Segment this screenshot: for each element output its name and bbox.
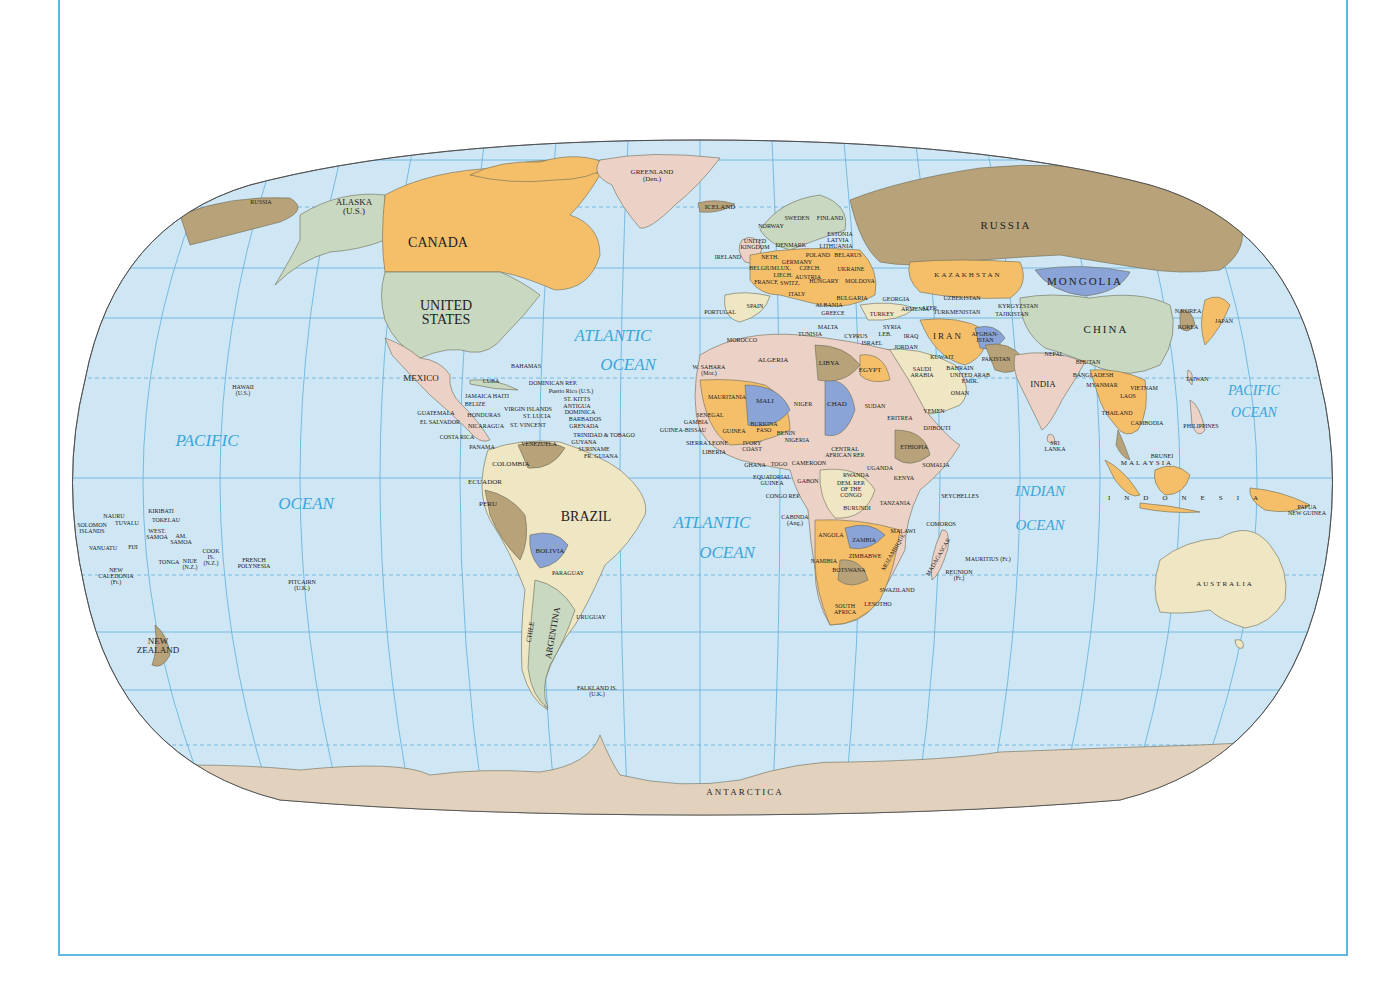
country-label: SOUTH AFRICA (834, 603, 856, 615)
country-label: GUINEA-BISSAU (660, 427, 706, 433)
country-label: NIUE (N.Z.) (183, 558, 198, 570)
country-label: ANGOLA (818, 532, 843, 538)
country-label: BOLIVIA (536, 548, 565, 555)
country-label: NIGER (794, 401, 812, 407)
country-label: INDIA (1030, 380, 1056, 389)
country-label: PAPUA NEW GUINEA (1288, 504, 1326, 516)
country-label: CAMBODIA (1131, 420, 1164, 426)
country-label: LIBYA (819, 360, 840, 367)
ocean-label: ATLANTIC (575, 326, 652, 346)
country-label: NEPAL (1045, 351, 1064, 357)
country-label: MYANMAR (1086, 382, 1117, 388)
ocean-label: PACIFIC (176, 431, 239, 451)
country-label: GRENADA (569, 423, 598, 429)
country-label: LESOTHO (864, 601, 891, 607)
country-label: PHILIPPINES (1183, 423, 1218, 429)
country-label: FIJI (128, 544, 138, 550)
country-label: ZIMBABWE (849, 553, 882, 559)
country-label: WEST. SAMOA (146, 528, 168, 540)
country-label: MALTA (818, 324, 838, 330)
country-label: CHINA (1084, 324, 1129, 335)
country-label: ALASKA (U.S.) (336, 198, 373, 216)
country-label: PITCAIRN (U.K.) (288, 579, 316, 591)
country-label: GUINEA (723, 428, 746, 434)
country-label: ANTARCTICA (706, 788, 783, 797)
country-label: RUSSIA (980, 220, 1031, 231)
country-label: SURINAME (578, 446, 609, 452)
country-label: TRINIDAD & TOBAGO (573, 432, 634, 438)
country-label: KAZAKHSTAN (934, 272, 1001, 279)
country-label: SAUDI ARABIA (910, 366, 933, 378)
country-label: ERITREA (887, 415, 912, 421)
country-label: CYPRUS (844, 333, 867, 339)
country-label: CABINDA (Ang.) (781, 514, 808, 526)
country-label: TAJIKISTAN (995, 311, 1028, 317)
country-label: COOK IS. (N.Z.) (202, 548, 219, 566)
country-label: NAURU (103, 513, 124, 519)
country-label: EL SALVADOR (420, 419, 460, 425)
country-label: REUNION (Fr.) (946, 569, 973, 581)
country-label: BOTSWANA (832, 567, 865, 573)
country-label: MOLDOVA (845, 278, 875, 284)
country-label: FR. GUIANA (584, 453, 618, 459)
ocean-label: OCEAN (1015, 517, 1064, 534)
country-label: IRAQ (904, 333, 919, 339)
ocean-label: OCEAN (1231, 405, 1277, 421)
country-label: GUYANA (571, 439, 596, 445)
country-label: EGYPT (859, 367, 882, 374)
country-label: MONGOLIA (1047, 276, 1123, 287)
country-label: DENMARK (776, 242, 806, 248)
country-label: DOMINICAN REP. (529, 380, 577, 386)
country-label: SPAIN (747, 303, 764, 309)
country-label: INDONESIA (1108, 495, 1272, 502)
country-label: TUVALU (115, 520, 139, 526)
country-label: UNITED KINGDOM (741, 238, 770, 250)
ocean-label: PACIFIC (1228, 383, 1280, 399)
country-label: TOKELAU (152, 517, 180, 523)
country-label: CHAD (827, 401, 847, 408)
country-label: CUBA (483, 378, 500, 384)
country-label: HONDURAS (467, 412, 500, 418)
country-label: RWANDA (843, 472, 869, 478)
ocean-label: OCEAN (600, 355, 656, 375)
country-label: LEB. (879, 331, 892, 337)
ocean-label: OCEAN (278, 494, 334, 514)
country-label: MALAYSIA (1121, 460, 1173, 467)
country-label: IRELAND (715, 254, 741, 260)
country-label: JORDAN (894, 344, 918, 350)
country-label: TANZANIA (880, 500, 911, 506)
country-label: JAMAICA HAITI (465, 393, 509, 399)
country-label: KYRGYZSTAN (998, 303, 1038, 309)
country-label: PANAMA (469, 444, 494, 450)
ocean-label: ATLANTIC (674, 513, 751, 533)
country-label: BHUTAN (1076, 359, 1101, 365)
country-label: BURUNDI (843, 505, 870, 511)
land-kazakhstan (909, 260, 1024, 298)
country-label: COSTA RICA (440, 434, 475, 440)
country-label: GEORGIA (883, 296, 910, 302)
country-label: TAIWAN (1185, 376, 1208, 382)
country-label: AUSTRALIA (1196, 581, 1254, 588)
country-label: VIETNAM (1130, 385, 1158, 391)
country-label: HUNGARY (809, 278, 839, 284)
country-label: CONGO REP. (766, 493, 801, 499)
country-label: FRENCH POLYNESIA (238, 557, 271, 569)
country-label: TUNISIA (798, 331, 822, 337)
country-label: AFGHAN- ISTAN (972, 331, 999, 343)
country-label: ST. KITTS (564, 396, 591, 402)
country-label: NORWAY (758, 223, 783, 229)
country-label: CENTRAL AFRICAN REP. (825, 446, 865, 458)
country-label: BELIZE (465, 401, 486, 407)
country-label: PARAGUAY (552, 570, 584, 576)
country-label: ST. LUCIA (523, 413, 551, 419)
country-label: UZBEKISTAN (943, 295, 980, 301)
country-label: PAKISTAN (982, 356, 1011, 362)
country-label: PERU (479, 501, 497, 508)
country-label: SUDAN (865, 403, 886, 409)
country-label: W. SAHARA (Mor.) (693, 364, 726, 376)
country-label: KENYA (894, 475, 914, 481)
country-label: KOREA (1178, 324, 1199, 330)
country-label: SIERRA LEONE (686, 440, 728, 446)
country-label: ST. VINCENT (510, 422, 546, 428)
country-label: SWEDEN (785, 215, 810, 221)
